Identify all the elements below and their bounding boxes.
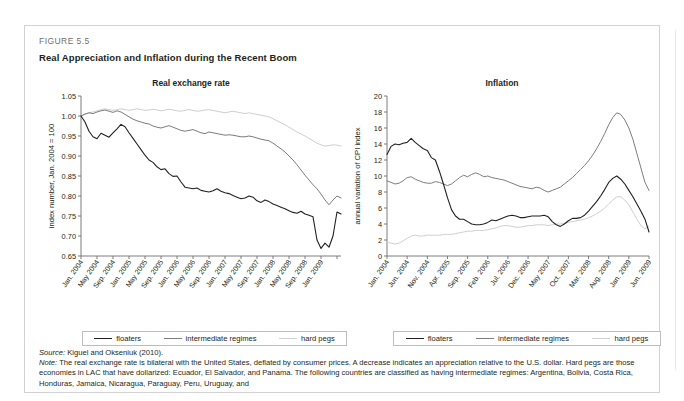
- series-line-intermediate-regimes: [81, 110, 341, 205]
- y-tick-label: 14: [374, 140, 382, 149]
- legend-swatch-icon: [164, 338, 182, 339]
- y-tick-label: 20: [374, 92, 382, 101]
- chart-title-inflation: Inflation: [347, 78, 657, 88]
- note-text: The real exchange rate is bilateral with…: [39, 358, 634, 387]
- chart-panel-inflation: Inflation 02468101214161820annual variat…: [347, 78, 657, 323]
- legend-item-hard-pegs: hard pegs: [592, 334, 648, 343]
- y-tick-label: 2: [378, 236, 382, 245]
- y-tick-label: 0.95: [62, 132, 76, 141]
- legend-label: hard pegs: [614, 334, 648, 343]
- y-tick-label: 12: [374, 156, 382, 165]
- y-axis-label: index number, Jan. 2004 = 100: [47, 124, 56, 229]
- y-tick-label: 1.00: [62, 112, 76, 121]
- legend-item-intermediate-regimes: intermediate regimes: [476, 334, 569, 343]
- legend-item-intermediate-regimes: intermediate regimes: [164, 334, 257, 343]
- legend-swatch-icon: [592, 338, 610, 339]
- y-tick-label: 0: [378, 252, 382, 261]
- legend-item-floaters: floaters: [94, 334, 141, 343]
- figure-number: FIGURE 5.5: [39, 36, 90, 46]
- y-tick-label: 0.90: [62, 152, 76, 161]
- legend-label: hard pegs: [301, 334, 335, 343]
- note-label: Note:: [39, 358, 57, 367]
- charts-row: Real exchange rate 0.650.700.750.800.850…: [25, 78, 659, 323]
- figure-title: Real Appreciation and Inflation during t…: [39, 52, 297, 63]
- y-tick-label: 0.85: [62, 172, 76, 181]
- legend-swatch-icon: [279, 338, 297, 339]
- y-tick-label: 4: [378, 220, 382, 229]
- source-label: Source:: [39, 348, 65, 357]
- figure-notes: Source: Kiguel and Okseniuk (2010). Note…: [39, 348, 639, 389]
- legend-swatch-icon: [94, 338, 112, 339]
- source-text: Kiguel and Okseniuk (2010).: [65, 348, 163, 357]
- legend-label: intermediate regimes: [186, 334, 257, 343]
- chart-svg-real-exchange-rate: 0.650.700.750.800.850.900.951.001.05inde…: [35, 78, 347, 323]
- source-line: Source: Kiguel and Okseniuk (2010).: [39, 348, 639, 358]
- y-tick-label: 0.75: [62, 212, 76, 221]
- chart-panel-real-exchange-rate: Real exchange rate 0.650.700.750.800.850…: [35, 78, 347, 323]
- legend-item-hard-pegs: hard pegs: [279, 334, 335, 343]
- y-tick-label: 0.70: [62, 232, 76, 241]
- y-tick-label: 1.05: [62, 92, 76, 101]
- series-line-floaters: [81, 116, 341, 248]
- legend-swatch-icon: [406, 338, 424, 339]
- y-tick-label: 10: [374, 172, 382, 181]
- legend-label: floaters: [428, 334, 453, 343]
- y-tick-label: 8: [378, 188, 382, 197]
- series-line-hard-pegs: [81, 109, 341, 146]
- legend-inflation: floatersintermediate regimeshard pegs: [393, 331, 661, 346]
- y-tick-label: 0.65: [62, 252, 76, 261]
- y-axis-label: annual variation of CPI index: [353, 127, 362, 224]
- y-tick-label: 16: [374, 124, 382, 133]
- y-tick-label: 6: [378, 204, 382, 213]
- y-tick-label: 0.80: [62, 192, 76, 201]
- figure-container: FIGURE 5.5 Real Appreciation and Inflati…: [24, 25, 660, 393]
- legend-item-floaters: floaters: [406, 334, 453, 343]
- page-edge-divider: [675, 30, 676, 370]
- chart-title-real-exchange-rate: Real exchange rate: [35, 78, 347, 88]
- legend-label: intermediate regimes: [498, 334, 569, 343]
- note-line: Note: The real exchange rate is bilatera…: [39, 358, 639, 389]
- y-tick-label: 18: [374, 108, 382, 117]
- series-line-intermediate-regimes: [387, 113, 649, 192]
- legend-real-exchange-rate: floatersintermediate regimeshard pegs: [82, 331, 347, 346]
- chart-svg-inflation: 02468101214161820annual variation of CPI…: [347, 78, 657, 323]
- legend-label: floaters: [116, 334, 141, 343]
- series-line-hard-pegs: [387, 197, 649, 244]
- legend-swatch-icon: [476, 338, 494, 339]
